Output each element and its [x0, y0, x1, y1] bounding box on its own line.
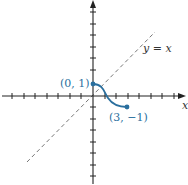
x-axis-label: x	[182, 99, 188, 112]
graph: (0, 1) (3, −1) y = x x	[0, 0, 188, 185]
line-label: y = x	[142, 42, 172, 55]
end-point-label: (3, −1)	[109, 111, 148, 124]
y-axis-arrow-icon	[90, 0, 96, 8]
start-point-marker	[91, 82, 96, 87]
end-point-marker	[125, 105, 130, 110]
start-point-label: (0, 1)	[60, 77, 90, 90]
